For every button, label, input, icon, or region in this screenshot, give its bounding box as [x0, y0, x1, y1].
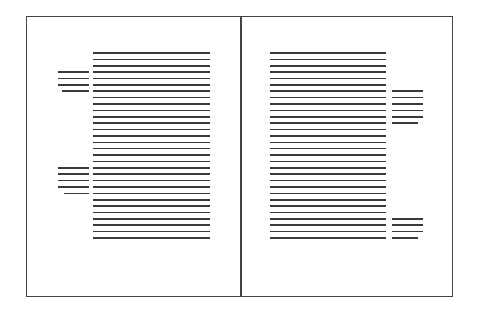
- right-page-text-line: [270, 193, 386, 195]
- left-page-text-line: [93, 173, 210, 175]
- left-page-text-line: [93, 78, 210, 80]
- right-page-text-line: [270, 97, 386, 99]
- right-page-text-line: [270, 71, 386, 73]
- right-page-text-line: [270, 218, 386, 220]
- left-page-side-note-2-line: [58, 186, 89, 188]
- left-page-text-line: [93, 199, 210, 201]
- left-page-text-line: [93, 59, 210, 61]
- right-page-side-note-1-line: [392, 97, 423, 99]
- right-page-text-line: [270, 237, 386, 239]
- right-page-side-note-1-line: [392, 116, 423, 118]
- right-page-text-line: [270, 180, 386, 182]
- right-page-text-line: [270, 65, 386, 67]
- left-page-text-line: [93, 122, 210, 124]
- left-page-text-line: [93, 167, 210, 169]
- right-page-text-line: [270, 154, 386, 156]
- left-page-text-line: [93, 65, 210, 67]
- right-page-text-line: [270, 173, 386, 175]
- left-page-side-note-1-line: [58, 71, 89, 73]
- right-page-text-line: [270, 122, 386, 124]
- left-page-text-line: [93, 129, 210, 131]
- right-page-text-line: [270, 59, 386, 61]
- left-page-side-note-2-line: [58, 167, 89, 169]
- left-page-text-line: [93, 90, 210, 92]
- right-page-text-line: [270, 231, 386, 233]
- left-page-text-line: [93, 161, 210, 163]
- right-page-text-line: [270, 52, 386, 54]
- left-page-text-line: [93, 110, 210, 112]
- left-page-text-line: [93, 135, 210, 137]
- right-page-side-note-2-line: [392, 237, 418, 239]
- right-page-text-line: [270, 84, 386, 86]
- left-page-text-line: [93, 205, 210, 207]
- right-page-text-line: [270, 161, 386, 163]
- right-page-side-note-1-line: [392, 90, 423, 92]
- left-page-text-line: [93, 231, 210, 233]
- right-page-text-line: [270, 103, 386, 105]
- left-page-side-note-2-line: [58, 173, 89, 175]
- left-page-text-line: [93, 142, 210, 144]
- right-page-text-line: [270, 205, 386, 207]
- left-page-text-line: [93, 193, 210, 195]
- left-page-text-line: [93, 212, 210, 214]
- left-page-side-note-1-line: [58, 78, 89, 80]
- right-page-text-line: [270, 199, 386, 201]
- right-page-text-line: [270, 167, 386, 169]
- left-page-side-note-2-line: [58, 180, 89, 182]
- right-page-text-line: [270, 224, 386, 226]
- left-page-side-note-1-line: [58, 84, 89, 86]
- right-page-text-line: [270, 116, 386, 118]
- right-page-side-note-2-line: [392, 218, 423, 220]
- right-page-side-note-2-line: [392, 231, 423, 233]
- left-page-text-line: [93, 103, 210, 105]
- left-page-text-line: [93, 116, 210, 118]
- left-page-text-line: [93, 186, 210, 188]
- left-page-text-line: [93, 97, 210, 99]
- left-page-text-line: [93, 180, 210, 182]
- right-page-text-line: [270, 110, 386, 112]
- right-page-text-line: [270, 78, 386, 80]
- right-page-side-note-1-line: [392, 122, 418, 124]
- right-page-text-line: [270, 142, 386, 144]
- right-page-text-line: [270, 212, 386, 214]
- left-page-text-line: [93, 218, 210, 220]
- book-spread-frame: [26, 16, 453, 297]
- right-page-text-line: [270, 135, 386, 137]
- right-page-side-note-2-line: [392, 224, 423, 226]
- left-page-side-note-1-line: [62, 90, 89, 92]
- right-page-text-line: [270, 148, 386, 150]
- right-page-text-line: [270, 186, 386, 188]
- left-page-text-line: [93, 84, 210, 86]
- right-page-side-note-1-line: [392, 110, 423, 112]
- left-page-side-note-2-line: [64, 193, 89, 195]
- right-page-side-note-1-line: [392, 103, 423, 105]
- left-page-text-line: [93, 148, 210, 150]
- left-page-text-line: [93, 52, 210, 54]
- left-page-text-line: [93, 237, 210, 239]
- left-page-text-line: [93, 71, 210, 73]
- left-page-text-line: [93, 224, 210, 226]
- page-gutter-divider: [240, 17, 242, 296]
- right-page-text-line: [270, 90, 386, 92]
- left-page-text-line: [93, 154, 210, 156]
- right-page-text-line: [270, 129, 386, 131]
